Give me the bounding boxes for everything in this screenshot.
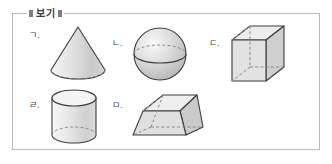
shape-label-3: ㄷ. [209,39,220,48]
shape-label-4: ㄹ. [29,101,40,110]
shape-label-5: ㅁ. [112,101,123,110]
cone-figure [44,25,112,81]
example-box: 보기 ㄱ. [12,13,320,150]
cuboid-figure [225,23,291,85]
cylinder-figure [47,89,101,145]
frustum-figure [128,89,212,145]
shape-label-2: ㄴ. [112,39,123,48]
shape-label-1: ㄱ. [29,31,40,40]
sphere-figure [129,25,191,83]
shape-grid: ㄱ. ㄴ. [13,14,319,149]
